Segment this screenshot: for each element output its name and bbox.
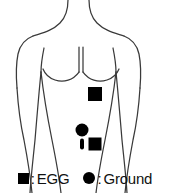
legend: : EGG : Ground (0, 165, 170, 191)
right-armpit-line (113, 48, 116, 72)
legend-item-ground: : Ground (83, 171, 152, 186)
legend-item-egg: : EGG (18, 171, 70, 186)
circle-marker-icon (83, 172, 95, 184)
capsule-marker (80, 139, 84, 150)
left-armpit-line (41, 48, 44, 72)
egg-electrode-lower (89, 138, 102, 151)
left-shoulder-line (16, 36, 33, 88)
right-shoulder-line (124, 36, 141, 88)
legend-label-egg: EGG (37, 171, 70, 186)
legend-label-ground: Ground (103, 171, 152, 186)
ground-electrode (76, 124, 89, 137)
square-marker-icon (18, 173, 29, 184)
right-pectoral-line (83, 69, 119, 81)
neck-right-line (89, 0, 124, 36)
legend-separator-ground: : (97, 171, 101, 186)
electrode-placement-figure: : EGG : Ground (0, 0, 170, 193)
legend-separator-egg: : (31, 171, 35, 186)
left-pectoral-line (43, 69, 79, 81)
egg-electrode-upper (88, 87, 102, 101)
neck-left-line (33, 0, 68, 36)
